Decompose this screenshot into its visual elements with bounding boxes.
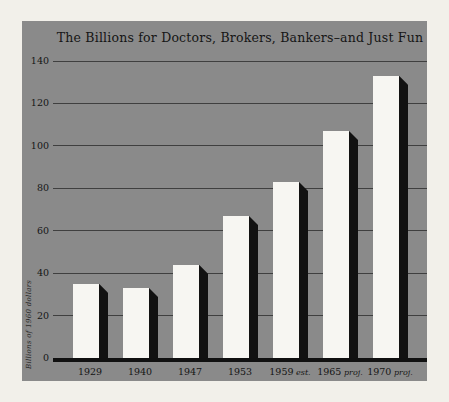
bar-shadow [349, 131, 358, 358]
chart-panel: The Billions for Doctors, Brokers, Banke… [22, 21, 427, 381]
bar [273, 182, 299, 358]
y-tick-label: 100 [24, 141, 49, 151]
x-tick-label: 1970 proj. [350, 366, 430, 377]
gridline [53, 61, 427, 62]
bar [373, 76, 399, 358]
y-tick-label: 0 [24, 353, 49, 363]
gridline [53, 103, 427, 104]
bar [123, 288, 149, 358]
plot-area: 02040608010012014019291940194719531959 e… [53, 61, 427, 358]
y-tick-label: 20 [24, 311, 49, 321]
bar-shadow [199, 265, 208, 358]
bar-shadow [249, 216, 258, 358]
bar [73, 284, 99, 358]
bar-shadow [99, 284, 108, 358]
y-tick-label: 140 [24, 56, 49, 66]
bar-shadow [399, 76, 408, 358]
y-tick-label: 40 [24, 268, 49, 278]
bar-shadow [149, 288, 158, 358]
y-tick-label: 60 [24, 226, 49, 236]
x-axis-baseline [53, 358, 427, 362]
gridline [53, 145, 427, 146]
bar [323, 131, 349, 358]
bar [223, 216, 249, 358]
chart-title: The Billions for Doctors, Brokers, Banke… [53, 30, 427, 45]
gridline [53, 188, 427, 189]
y-tick-label: 80 [24, 183, 49, 193]
bar [173, 265, 199, 358]
bar-shadow [299, 182, 308, 358]
y-tick-label: 120 [24, 98, 49, 108]
page-background: The Billions for Doctors, Brokers, Banke… [0, 0, 449, 402]
